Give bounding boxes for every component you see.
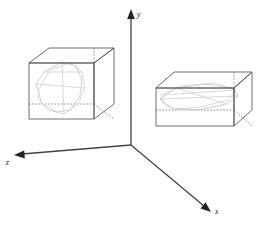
x-axis: x: [131, 145, 219, 216]
y-axis-arrowhead-icon: [127, 9, 135, 19]
right-box: [156, 72, 252, 126]
z-axis-line: [22, 145, 131, 154]
right-box-right-face: [234, 72, 252, 126]
z-axis: z: [5, 145, 131, 167]
right-box-cross-section: [160, 83, 238, 110]
y-axis: y: [127, 9, 141, 145]
x-axis-line: [131, 145, 204, 206]
z-axis-arrowhead-icon: [14, 150, 25, 158]
left-box-top-face: [29, 48, 114, 63]
left-box-right-face: [94, 48, 114, 119]
three-d-axes-figure: y x z: [0, 0, 262, 225]
right-box-top-face: [156, 72, 252, 88]
z-axis-label: z: [5, 158, 9, 167]
figure-container: y x z: [0, 0, 262, 225]
left-box-cross-section: [36, 62, 85, 114]
axis-system: y x z: [5, 9, 219, 216]
y-axis-label: y: [136, 10, 141, 19]
left-box: [29, 48, 114, 119]
x-axis-label: x: [214, 207, 219, 216]
